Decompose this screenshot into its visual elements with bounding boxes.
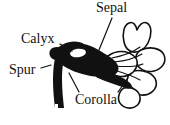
leader-line-corolla-left (69, 73, 79, 92)
corolla-lobe-bottom (118, 87, 140, 108)
corolla-lobe-right (136, 48, 165, 72)
spur-tip-notch (55, 104, 58, 109)
leader-line-sepal (99, 18, 112, 50)
figure-canvas: Sepal Calyx Spur Corolla (0, 0, 170, 125)
spur-stroke (49, 47, 66, 109)
label-spur: Spur (9, 63, 35, 77)
label-corolla: Corolla (75, 93, 117, 107)
label-calyx: Calyx (21, 32, 54, 46)
leader-line-spur (41, 65, 51, 68)
label-sepal: Sepal (96, 1, 127, 15)
